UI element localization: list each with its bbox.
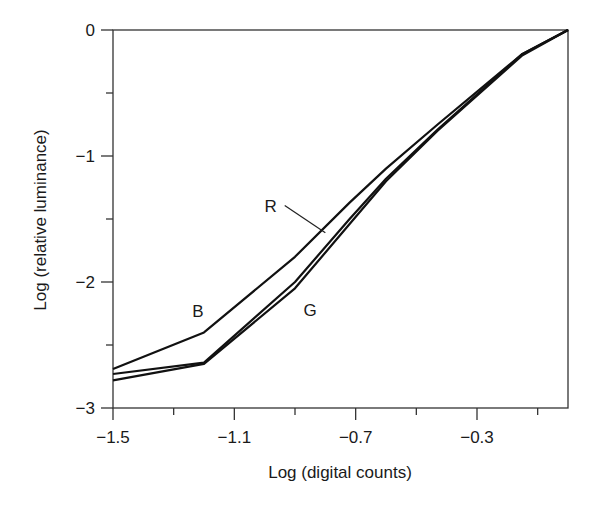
series-labels: BRG <box>192 197 325 321</box>
y-axis-ticks: 0−1−2−3 <box>76 21 113 418</box>
y-tick-label: −2 <box>76 273 95 292</box>
leader-line-r <box>285 205 326 232</box>
series-line-b <box>113 30 568 369</box>
y-tick-label: −1 <box>76 147 95 166</box>
x-tick-label: −1.5 <box>96 428 130 447</box>
y-axis-title: Log (relative luminance) <box>31 129 50 310</box>
x-tick-label: −1.1 <box>218 428 252 447</box>
x-tick-label: −0.7 <box>339 428 373 447</box>
x-axis-ticks: −1.5−1.1−0.7−0.3 <box>96 408 537 447</box>
y-tick-label: −3 <box>76 399 95 418</box>
series-line-r <box>113 30 568 374</box>
series-label-g: G <box>304 301 317 320</box>
plot-frame <box>113 30 568 408</box>
chart: −1.5−1.1−0.7−0.3 0−1−2−3 BRG Log (digita… <box>0 0 598 509</box>
plot-border <box>113 30 568 408</box>
x-tick-label: −0.3 <box>460 428 494 447</box>
y-tick-label: 0 <box>86 21 95 40</box>
series-label-b: B <box>192 302 203 321</box>
series-label-r: R <box>265 197 277 216</box>
x-axis-title: Log (digital counts) <box>268 463 412 482</box>
series-lines <box>113 30 568 380</box>
series-line-g <box>113 30 568 380</box>
